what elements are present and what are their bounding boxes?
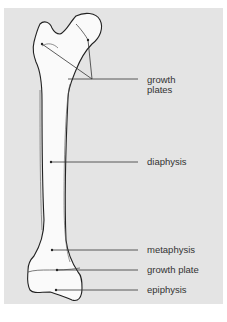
label-growth-plate: growth plate: [147, 265, 199, 275]
label-diaphysis: diaphysis: [147, 157, 187, 167]
label-growth-plates: growth plates: [147, 75, 176, 95]
label-epiphysis: epiphysis: [147, 285, 187, 295]
label-metaphysis: metaphysis: [147, 245, 195, 255]
label-growth-plates-line2: plates: [147, 85, 176, 95]
